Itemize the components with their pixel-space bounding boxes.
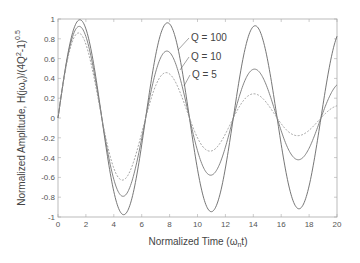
- y-tick-label: -1: [48, 213, 56, 222]
- leader-line-q5: [184, 75, 190, 86]
- legend-label-q10: Q = 10: [191, 51, 222, 62]
- x-tick-label: 16: [277, 220, 286, 229]
- y-tick-label: -0.4: [41, 154, 55, 163]
- y-tick-label: -0.8: [41, 193, 55, 202]
- damped-oscillation-chart: 02468101214161820 -1-0.8-0.6-0.4-0.200.2…: [0, 0, 360, 263]
- y-axis-label: Normalized Amplitude, H(jωv)/(4Q2-1)0.5: [14, 30, 28, 206]
- legend-label-q100: Q = 100: [191, 32, 227, 43]
- x-axis-label: Normalized Time (ωnt): [149, 236, 248, 248]
- y-tick-label: -0.2: [41, 134, 55, 143]
- curve-q100: [58, 20, 337, 215]
- leader-line-q100: [178, 38, 189, 50]
- y-tick-label: 0: [51, 114, 56, 123]
- legend-annotations: Q = 100 Q = 10 Q = 5: [178, 32, 227, 86]
- plot-frame: [58, 19, 337, 217]
- x-tick-label: 0: [56, 220, 61, 229]
- x-tick-label: 8: [167, 220, 172, 229]
- legend-label-q5: Q = 5: [192, 69, 217, 80]
- x-tick-label: 20: [333, 220, 342, 229]
- x-tick-label: 6: [139, 220, 144, 229]
- y-tick-label: 1: [51, 15, 56, 24]
- y-tick-label: 0.4: [44, 74, 56, 83]
- y-tick-label: 0.8: [44, 35, 56, 44]
- x-tick-label: 14: [249, 220, 258, 229]
- y-tick-label: -0.6: [41, 173, 55, 182]
- x-tick-label: 4: [112, 220, 117, 229]
- x-tick-label: 2: [84, 220, 89, 229]
- x-tick-label: 18: [305, 220, 314, 229]
- y-tick-label: 0.2: [44, 94, 56, 103]
- y-tick-label: 0.6: [44, 55, 56, 64]
- x-tick-label: 10: [193, 220, 202, 229]
- series-curves: [58, 20, 337, 215]
- x-tick-label: 12: [221, 220, 230, 229]
